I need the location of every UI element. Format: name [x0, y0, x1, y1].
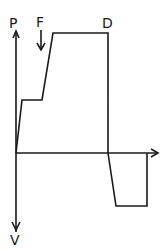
label-f: F: [36, 14, 44, 30]
waveform-line: [16, 33, 147, 206]
label-v: V: [10, 232, 20, 248]
waveform-diagram: P F D V: [0, 0, 166, 250]
label-p: P: [9, 15, 17, 31]
label-d: D: [102, 15, 113, 31]
